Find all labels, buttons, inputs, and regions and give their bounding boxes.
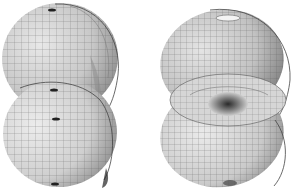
pole-marker (51, 182, 59, 185)
pole-marker (52, 117, 60, 120)
right-surface-render (150, 0, 296, 190)
pole-marker (48, 8, 56, 11)
left-surface-render (0, 0, 130, 190)
pole-marker (50, 88, 58, 91)
toroidal-center (170, 74, 286, 126)
left-surface-figure (0, 0, 130, 190)
right-surface-figure (150, 0, 296, 190)
